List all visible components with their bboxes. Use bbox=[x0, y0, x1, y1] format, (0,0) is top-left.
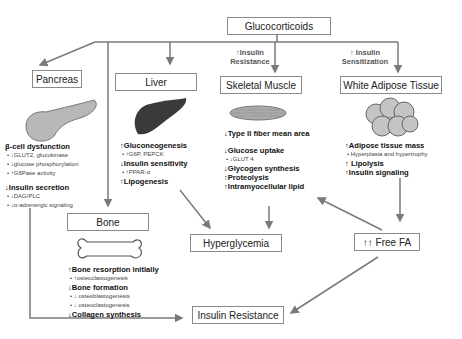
bone-effects: ↑Bone resorption initially • ↑osteoclast… bbox=[68, 265, 159, 319]
liver-box: Liver bbox=[115, 73, 197, 91]
pancreas-box: Pancreas bbox=[32, 70, 82, 88]
white-adipose-box: White Adipose Tissue bbox=[340, 76, 442, 94]
hyperglycemia-box: Hyperglycemia bbox=[190, 234, 282, 252]
title-label: Glucocorticoids bbox=[245, 21, 313, 32]
bone-box: Bone bbox=[67, 213, 149, 231]
liver-icon bbox=[130, 96, 190, 138]
adipose-effects: ↑Adipose tissue mass • Hyperplasia and h… bbox=[345, 141, 427, 177]
liver-effects: ↑Gluconeogenesis • ↑G6P, PEPCK ↓Insulin … bbox=[120, 141, 188, 186]
muscle-icon bbox=[228, 102, 288, 124]
insulin-resistance-box: Insulin Resistance bbox=[192, 306, 284, 324]
insulin-resistance-label: ↑InsulinResistance bbox=[225, 48, 275, 66]
skeletal-muscle-box: Skeletal Muscle bbox=[220, 76, 302, 94]
adipose-cells-icon bbox=[362, 96, 422, 140]
muscle-effects: ↓Type II fiber mean area ↓Glucose uptake… bbox=[224, 129, 310, 191]
glucocorticoids-box: Glucocorticoids bbox=[227, 17, 331, 35]
pancreas-icon bbox=[20, 96, 100, 144]
free-fa-box: ↑↑ Free FA bbox=[354, 233, 420, 251]
insulin-sensitization-label: ↑ InsulinSensitization bbox=[336, 48, 394, 66]
bone-icon bbox=[75, 234, 145, 264]
pancreas-effects: β-cell dysfunction • ↓GLUT2, glucokinase… bbox=[5, 142, 78, 210]
